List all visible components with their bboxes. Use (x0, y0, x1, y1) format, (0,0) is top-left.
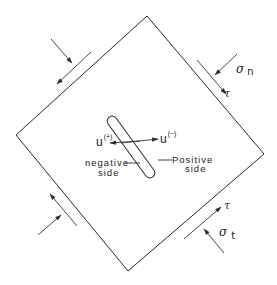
shear-arrow-top-left (57, 52, 91, 84)
bottom-left-face-loads (38, 194, 77, 235)
tau-label-bottom: τ (224, 199, 231, 212)
positive-side-label-line2: side (185, 163, 206, 174)
tau-label-top: τ (224, 87, 231, 100)
shear-arrow-bottom-right (184, 207, 221, 239)
top-right-face-loads: σn τ (197, 54, 254, 100)
sigma-t-label: σt (219, 225, 235, 241)
crack-stress-diagram: σn τ τ σt u(+) u(−) negative side (0, 0, 277, 285)
shear-arrow-top-right (197, 60, 226, 94)
side-labels: negative side Positive side (85, 154, 213, 178)
normal-arrow-top-left (51, 39, 72, 63)
top-left-face-loads (51, 39, 91, 84)
u-minus-arrow (121, 139, 158, 143)
u-minus-label: u(−) (160, 130, 176, 146)
bottom-right-face-loads: τ σt (184, 199, 235, 253)
sigma-n-label: σn (236, 62, 254, 77)
u-plus-label: u(+) (96, 133, 112, 149)
normal-arrow-sigma-n (215, 54, 237, 75)
normal-arrow-bottom-left (38, 215, 61, 235)
negative-side-label-line2: side (98, 167, 119, 178)
